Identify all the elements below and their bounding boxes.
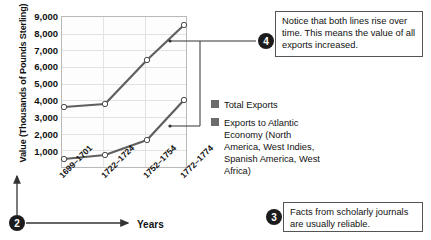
y-tick-label: 6,000	[24, 62, 58, 72]
legend-item-total-exports: Total Exports	[211, 99, 321, 111]
legend-swatch-icon	[211, 118, 219, 126]
badge-3: 3	[266, 209, 282, 225]
badge-3-label: 3	[271, 212, 277, 223]
y-tick-label: 9,000	[24, 12, 58, 22]
y-tick-label: 3,000	[24, 113, 58, 123]
y-tick-label: 5,000	[24, 79, 58, 89]
badge-2: 2	[9, 215, 25, 231]
callout-3-text: Facts from scholarly journals are usuall…	[290, 207, 408, 229]
badge-4-label: 4	[263, 36, 269, 47]
chart-figure: Value (Thousands of Pounds Sterling) 9,0…	[0, 0, 431, 240]
y-tick-label: 2,000	[24, 130, 58, 140]
y-tick-label: 1,000	[24, 147, 58, 157]
callout-4-text: Notice that both lines rise over time. T…	[282, 16, 415, 50]
callout-3-box: Facts from scholarly journals are usuall…	[283, 202, 423, 232]
badge-2-label: 2	[14, 218, 20, 229]
legend-label: Total Exports	[224, 99, 278, 111]
line-total-exports	[64, 25, 184, 107]
callout-4-box: Notice that both lines rise over time. T…	[275, 11, 423, 57]
y-tick-label: 8,000	[24, 29, 58, 39]
badge-4: 4	[258, 33, 274, 49]
y-tick-label: 4,000	[24, 96, 58, 106]
y-tick-label: 7,000	[24, 46, 58, 56]
legend-swatch-icon	[211, 100, 219, 108]
x-axis-title: Years	[137, 219, 164, 230]
legend-label: Exports to Atlantic Economy (North Ameri…	[224, 117, 321, 177]
legend-item-atlantic-exports: Exports to Atlantic Economy (North Ameri…	[211, 117, 321, 177]
markers-total-exports	[61, 22, 186, 109]
legend: Total Exports Exports to Atlantic Econom…	[211, 99, 321, 183]
y-axis-tick-labels: 9,000 8,000 7,000 6,000 5,000 4,000 3,00…	[22, 0, 58, 200]
